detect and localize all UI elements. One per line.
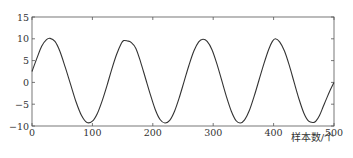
x-tick-label: 100: [83, 127, 101, 138]
x-tick-label: 400: [265, 127, 283, 138]
x-axis-label: 样本数/个: [291, 131, 334, 143]
y-tick-label: −5: [15, 99, 29, 110]
x-tick-label: 0: [29, 127, 35, 138]
line-chart: −10−5051015 0100200300400500 样本数/个: [0, 0, 353, 158]
y-tick-label: 10: [17, 33, 29, 44]
plot-area: [32, 17, 334, 126]
y-tick-label: 5: [23, 55, 29, 66]
y-tick-label: −10: [9, 121, 29, 132]
x-tick-label: 300: [204, 127, 222, 138]
x-tick-label: 200: [144, 127, 162, 138]
y-tick-label: 0: [23, 77, 29, 88]
y-tick-label: 15: [17, 12, 29, 23]
